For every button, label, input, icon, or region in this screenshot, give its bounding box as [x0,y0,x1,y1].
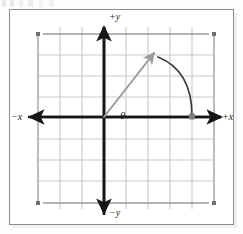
axis-label-negative-x: −x [11,112,22,122]
frame-shadow-right [234,13,237,225]
angle-theta-label: θ [120,110,125,121]
trajectory-arc [158,57,192,116]
axis-label-positive-y: +y [109,12,120,22]
axis-label-positive-x: +x [222,112,233,122]
arc-endpoint-marker [189,114,195,120]
vector-arrow [104,53,154,117]
scan-noise-artifact [2,0,62,7]
axis-label-negative-y: −y [109,208,120,218]
scanned-figure: +y −y +x −x θ [0,0,243,234]
frame-shadow-bottom [12,225,237,228]
